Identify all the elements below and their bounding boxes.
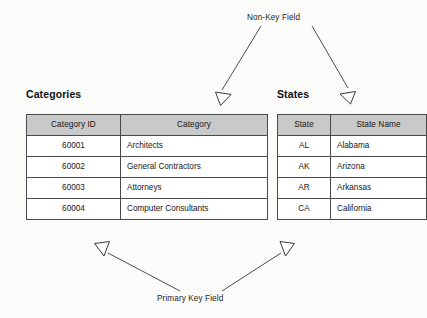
table-states: State State Name AL Alabama AK Arizona A…: [277, 114, 427, 220]
annotation-label-non-key-field: Non-Key Field: [247, 13, 300, 22]
table-row: 60001 Architects: [27, 136, 268, 157]
column-header-category: Category: [121, 115, 268, 136]
table-title-states: States: [277, 88, 309, 100]
arrow-non-key-to-categories: [216, 26, 262, 106]
cell-category: General Contractors: [121, 157, 268, 178]
table-header-row: State State Name: [278, 115, 427, 136]
cell-state: AL: [278, 136, 331, 157]
table-row: 60003 Attorneys: [27, 178, 268, 199]
cell-category-id: 60002: [27, 157, 121, 178]
cell-category-id: 60004: [27, 199, 121, 220]
cell-state: AK: [278, 157, 331, 178]
table-row: AR Arkansas: [278, 178, 427, 199]
cell-category: Attorneys: [121, 178, 268, 199]
cell-state-name: Arkansas: [331, 178, 427, 199]
cell-category: Architects: [121, 136, 268, 157]
arrow-primary-key-to-categories: [95, 242, 181, 292]
cell-state-name: Alabama: [331, 136, 427, 157]
table-row: 60004 Computer Consultants: [27, 199, 268, 220]
cell-state: AR: [278, 178, 331, 199]
cell-state-name: California: [331, 199, 427, 220]
table-header-row: Category ID Category: [27, 115, 268, 136]
cell-category: Computer Consultants: [121, 199, 268, 220]
table-categories: Category ID Category 60001 Architects 60…: [26, 114, 268, 220]
table-row: 60002 General Contractors: [27, 157, 268, 178]
column-header-category-id: Category ID: [27, 115, 121, 136]
table-row: AK Arizona: [278, 157, 427, 178]
cell-category-id: 60003: [27, 178, 121, 199]
cell-category-id: 60001: [27, 136, 121, 157]
column-header-state-name: State Name: [331, 115, 427, 136]
arrow-primary-key-to-states: [222, 242, 295, 292]
table-row: CA California: [278, 199, 427, 220]
arrow-non-key-to-states: [312, 26, 356, 104]
cell-state: CA: [278, 199, 331, 220]
table-title-categories: Categories: [26, 88, 81, 100]
annotation-label-primary-key-field: Primary Key Field: [157, 294, 223, 303]
cell-state-name: Arizona: [331, 157, 427, 178]
table-row: AL Alabama: [278, 136, 427, 157]
column-header-state: State: [278, 115, 331, 136]
